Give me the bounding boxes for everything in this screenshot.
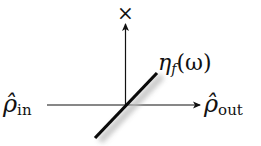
input-label: ρ̂in — [2, 90, 32, 119]
output-label: ρ̂out — [203, 90, 243, 119]
splitter-symbol: η — [158, 50, 171, 75]
output-symbol: ρ̂ — [203, 90, 218, 118]
input-subscript: in — [17, 101, 32, 119]
output-subscript: out — [218, 101, 243, 119]
splitter-argument: (ω) — [176, 50, 211, 75]
splitter-label: ηf(ω) — [158, 50, 211, 77]
discard-mark: × — [117, 1, 134, 25]
beam-splitter-diagram: × ρ̂in ρ̂out ηf(ω) — [0, 0, 261, 146]
input-symbol: ρ̂ — [2, 90, 17, 118]
splitter-shadow — [100, 76, 162, 141]
